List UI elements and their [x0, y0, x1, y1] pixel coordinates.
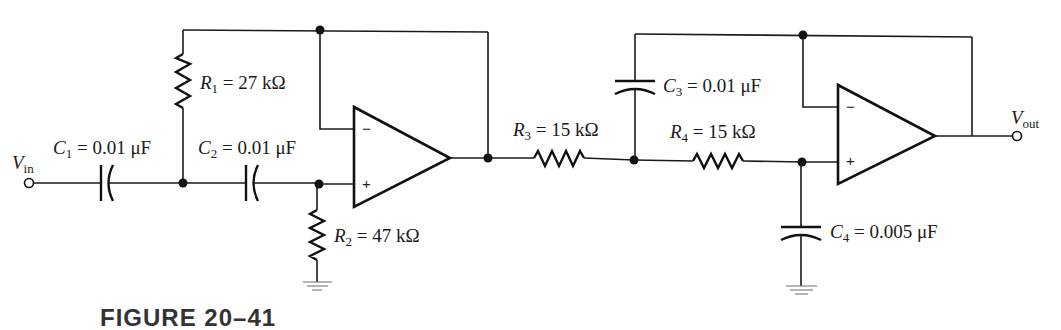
c4-label: C4 = 0.005 μF	[830, 222, 938, 244]
input-terminal	[25, 179, 34, 188]
u2-inverting-sign: −	[846, 99, 855, 114]
capacitor-c2	[183, 165, 319, 201]
capacitor-c1	[101, 165, 183, 201]
r3-label: R3 = 15 kΩ	[513, 120, 599, 142]
c3-label: C3 = 0.01 μF	[663, 76, 761, 98]
vin-label: Vin	[12, 153, 34, 175]
u2-noninverting-sign: +	[846, 153, 855, 168]
r1-label: R1 = 27 kΩ	[200, 73, 286, 95]
c1-label: C1 = 0.01 μF	[53, 138, 151, 160]
ground-icon	[303, 282, 332, 290]
resistor-r3	[488, 151, 634, 166]
u1-inverting-sign: −	[362, 121, 371, 136]
capacitor-c4	[781, 162, 821, 286]
ground-icon	[786, 286, 817, 294]
figure-caption: FIGURE 20–41	[100, 306, 276, 330]
output-terminal	[1013, 132, 1022, 141]
r2-label: R2 = 47 kΩ	[334, 226, 420, 248]
u1-noninverting-sign: +	[362, 176, 371, 191]
r4-label: R4 = 15 kΩ	[670, 122, 756, 144]
resistor-r2	[310, 184, 324, 282]
vout-label: Vout	[1011, 108, 1039, 130]
c2-label: C2 = 0.01 μF	[198, 138, 296, 160]
resistor-r4	[634, 154, 802, 168]
